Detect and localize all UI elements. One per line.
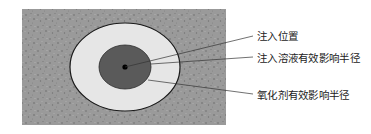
diagram-canvas bbox=[0, 0, 371, 134]
label-oxidant-radius: 氧化剂有效影响半径 bbox=[257, 89, 350, 101]
label-injection-point: 注入位置 bbox=[257, 30, 298, 42]
label-solution-radius: 注入溶液有效影响半径 bbox=[257, 52, 360, 64]
